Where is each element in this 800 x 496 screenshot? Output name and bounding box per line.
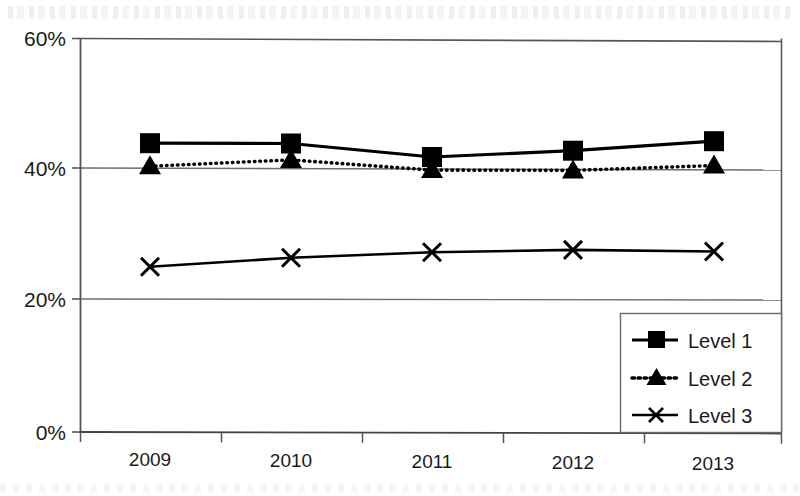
data-series-layer <box>139 131 725 276</box>
y-tick-label-40: 40% <box>24 157 66 180</box>
legend-label-level-2: Level 2 <box>688 368 753 390</box>
gridline-20 <box>80 299 782 300</box>
y-tick-label-0: 0% <box>36 421 66 444</box>
y-axis-labels: 60% 40% 20% 0% <box>24 27 66 444</box>
x-tick-label-2013: 2013 <box>692 453 734 474</box>
gridline-60 <box>80 39 782 42</box>
data-point <box>704 131 724 151</box>
chart-screenshot: 60% 40% 20% 0% 2009 2010 2011 2012 2013 <box>0 0 800 496</box>
data-point <box>139 155 161 174</box>
series-level-3 <box>141 241 723 276</box>
triangle-marker-icon <box>139 155 161 174</box>
x-tick-label-2009: 2009 <box>129 449 171 470</box>
data-point <box>140 133 160 153</box>
data-point <box>703 155 725 174</box>
square-marker-icon <box>704 131 724 151</box>
x-tick-label-2012: 2012 <box>552 452 594 473</box>
square-marker-icon <box>140 133 160 153</box>
x-tick-label-2010: 2010 <box>270 450 312 471</box>
data-point <box>563 141 583 161</box>
chart-legend: Level 1 Level 2 Level 3 <box>621 314 782 433</box>
square-marker-icon <box>563 141 583 161</box>
x-tick-label-2011: 2011 <box>412 451 453 472</box>
x-axis-labels: 2009 2010 2011 2012 2013 <box>129 449 734 474</box>
square-marker-icon <box>648 331 665 348</box>
y-tick-marks <box>72 39 80 433</box>
legend-label-level-1: Level 1 <box>688 330 753 352</box>
y-tick-label-20: 20% <box>24 288 66 311</box>
triangle-marker-icon <box>703 155 725 174</box>
legend-label-level-3: Level 3 <box>688 405 753 427</box>
line-chart: 60% 40% 20% 0% 2009 2010 2011 2012 2013 <box>0 0 800 496</box>
y-tick-label-60: 60% <box>24 27 66 50</box>
